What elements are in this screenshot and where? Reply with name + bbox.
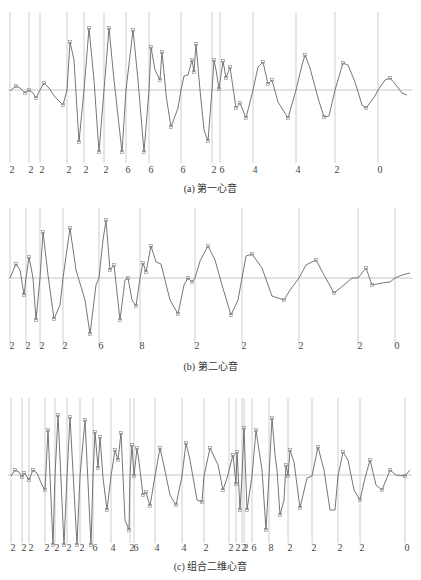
segment-label: 6 (93, 542, 98, 553)
panel-b (8, 208, 412, 346)
segment-label: 2 (10, 340, 15, 351)
segment-label: 2 (80, 542, 85, 553)
segment-label: 2 (338, 542, 343, 553)
segment-label: 4 (296, 164, 301, 175)
segment-label: 6 (220, 164, 225, 175)
segment-label: 2 (55, 542, 60, 553)
segment-label: 2 (204, 542, 209, 553)
segment-label: 2 (26, 340, 31, 351)
segment-label: 4 (182, 542, 187, 553)
caption-a: (a) 第一心音 (0, 180, 421, 195)
heart-sound-waveform (11, 415, 410, 545)
segment-label: 2 (22, 542, 27, 553)
segment-label: 2 (299, 340, 304, 351)
segment-label: 2 (229, 542, 234, 553)
segment-label: 2 (195, 340, 200, 351)
segment-label: 2 (84, 164, 89, 175)
segment-label: 2 (236, 542, 241, 553)
caption-c: (c) 组合二维心音 (0, 558, 421, 573)
segment-label: 4 (253, 164, 258, 175)
segment-label: 8 (140, 340, 145, 351)
segment-label: 4 (155, 542, 160, 553)
segment-label: 2 (45, 542, 50, 553)
panel-a (8, 12, 412, 163)
segment-label: 6 (181, 164, 186, 175)
segment-label: 2 (40, 340, 45, 351)
segment-label: 2 (11, 542, 16, 553)
segment-label: 0 (405, 542, 410, 553)
segment-label: 4 (111, 542, 116, 553)
segment-label: 2 (358, 340, 363, 351)
segment-label: 2 (67, 164, 72, 175)
segment-label: 2 (29, 542, 34, 553)
segment-label: 2 (244, 542, 249, 553)
segment-label: 2 (67, 542, 72, 553)
segment-label: 2 (360, 542, 365, 553)
segment-label: 0 (378, 164, 383, 175)
segment-label: 2 (242, 340, 247, 351)
segment-label: 2 (10, 164, 15, 175)
segment-label: 6 (126, 164, 131, 175)
figure-stage: 2222226662644202222682222022222226426442… (0, 0, 421, 580)
segment-label: 0 (395, 340, 400, 351)
segment-label: 6 (99, 340, 104, 351)
segment-label: 8 (269, 542, 274, 553)
segment-label: 6 (134, 542, 139, 553)
segment-label: 2 (335, 164, 340, 175)
panel-c (8, 398, 412, 547)
segment-label: 2 (63, 340, 68, 351)
segment-label: 2 (40, 164, 45, 175)
caption-b: (b) 第二心音 (0, 358, 421, 373)
segment-label: 2 (104, 164, 109, 175)
segment-label: 2 (29, 164, 34, 175)
segment-label: 2 (288, 542, 293, 553)
segment-label: 6 (252, 542, 257, 553)
heart-sound-segmentation-figure (0, 0, 421, 580)
heart-sound-waveform (10, 220, 410, 334)
segment-label: 2 (312, 542, 317, 553)
segment-label: 2 (212, 164, 217, 175)
segment-label: 6 (149, 164, 154, 175)
